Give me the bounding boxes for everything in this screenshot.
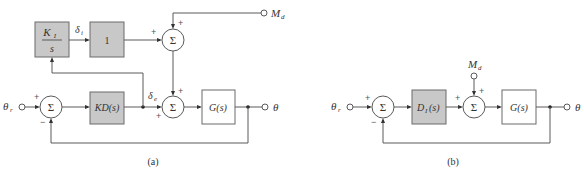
left-summing-junction: Σ <box>40 96 62 118</box>
delta-e-label: δ <box>148 90 153 101</box>
svg-text:Σ: Σ <box>471 101 477 113</box>
caption-a: (a) <box>147 156 158 168</box>
svg-text:−: − <box>371 117 376 127</box>
output-label-b: θ <box>575 101 581 113</box>
svg-text:D: D <box>416 102 425 113</box>
left-summing-junction-b: Σ <box>372 96 394 118</box>
integrator-denominator: s <box>50 43 54 54</box>
svg-text:+: + <box>455 93 460 103</box>
disturbance-label: M <box>270 7 281 19</box>
svg-text:+: + <box>479 86 484 96</box>
svg-text:d: d <box>281 13 285 21</box>
input-label: θ <box>3 100 9 112</box>
svg-text:G(s): G(s) <box>209 102 227 114</box>
svg-text:1: 1 <box>105 35 110 46</box>
delta-i-label: δ <box>75 24 80 35</box>
disturbance-terminal <box>261 10 267 16</box>
input-label-b: θ <box>331 100 337 112</box>
bottom-summing-junction: Σ <box>162 96 184 118</box>
svg-text:+: + <box>365 93 370 103</box>
svg-text:G(s): G(s) <box>510 102 528 114</box>
disturbance-label-b: M <box>467 58 478 70</box>
output-terminal <box>262 104 268 110</box>
svg-text:Σ: Σ <box>170 34 176 46</box>
svg-text:e: e <box>154 95 157 103</box>
unity-block: 1 <box>90 22 124 57</box>
output-label: θ <box>273 101 279 113</box>
controller-block: KD(s) <box>90 92 124 124</box>
diagram-b: θ r + Σ − D I (s) + M d + <box>331 58 581 168</box>
integrator-block: K I s <box>35 22 69 57</box>
integrator-numerator: K <box>42 26 51 38</box>
svg-text:(s): (s) <box>429 102 440 114</box>
svg-text:+: + <box>34 92 39 102</box>
svg-text:Σ: Σ <box>48 101 54 113</box>
plant-block: G(s) <box>202 90 235 124</box>
top-summing-junction: Σ <box>162 29 184 51</box>
caption-b: (b) <box>447 156 459 168</box>
input-terminal <box>19 104 25 110</box>
svg-text:+: + <box>151 27 156 37</box>
svg-text:Σ: Σ <box>170 101 176 113</box>
svg-text:+: + <box>178 18 183 28</box>
svg-text:r: r <box>10 106 13 114</box>
block-diagrams: K I s δ i 1 + Σ + M d <box>0 0 584 175</box>
input-terminal-b <box>347 104 353 110</box>
svg-text:Σ: Σ <box>380 101 386 113</box>
right-summing-junction-b: Σ <box>463 96 485 118</box>
diagram-a: K I s δ i 1 + Σ + M d <box>3 7 285 168</box>
delta-i-sub: i <box>81 29 83 37</box>
svg-text:−: − <box>40 117 45 127</box>
svg-text:KD(s): KD(s) <box>94 102 120 114</box>
svg-text:d: d <box>478 64 482 72</box>
controller-block-b: D I (s) <box>412 90 446 124</box>
disturbance-terminal-b <box>471 73 477 79</box>
svg-text:+: + <box>178 86 183 96</box>
output-terminal-b <box>564 104 570 110</box>
plant-block-b: G(s) <box>502 90 536 124</box>
svg-text:+: + <box>156 111 161 121</box>
svg-text:r: r <box>338 106 341 114</box>
